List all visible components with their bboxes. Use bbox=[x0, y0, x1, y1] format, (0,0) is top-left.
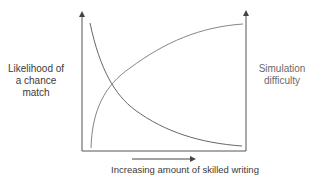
simulation-difficulty-curve bbox=[91, 24, 243, 148]
x-axis-label: Increasing amount of skilled writing bbox=[60, 164, 310, 176]
left-axis-label: Likelihood of a chance match bbox=[2, 63, 70, 99]
left-axis-label-line: match bbox=[2, 87, 70, 99]
left-axis-label-line: Likelihood of bbox=[2, 63, 70, 75]
right-axis-label-line: difficulty bbox=[250, 75, 314, 87]
right-axis-label-line: Simulation bbox=[250, 63, 314, 75]
right-axis-label: Simulation difficulty bbox=[250, 63, 314, 87]
chance-match-curve bbox=[90, 23, 242, 146]
left-axis-label-line: a chance bbox=[2, 75, 70, 87]
